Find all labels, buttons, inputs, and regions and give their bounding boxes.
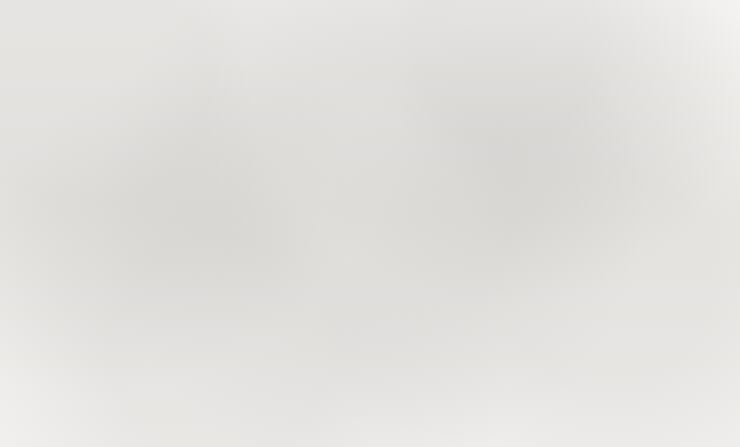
right-axis-unit-label: （%） — [676, 8, 730, 27]
left-axis-tick-label: 500 — [0, 301, 62, 320]
right-axis-tick-label: 30 — [676, 217, 695, 236]
right-axis-tick-label: 0 — [676, 354, 686, 373]
right-axis-tick-label: 20 — [676, 263, 695, 282]
x-axis-unit-label: （年份） — [650, 382, 726, 401]
data-series-layer — [103, 72, 523, 242]
right-axis-tick-label: 70 — [676, 35, 695, 54]
chart-canvas: 05001 0001 5002 0002 5003 000 0102030405… — [0, 0, 740, 447]
right-axis-tick-label: 40 — [676, 172, 695, 191]
legend-label-shanghai: 上海 — [469, 412, 507, 439]
chart-plot-area — [0, 0, 740, 447]
right-axis-tick-label: 50 — [676, 126, 695, 145]
right-axis-tick-label: 60 — [676, 81, 695, 100]
legend-item-shanghai[interactable]: 上海 — [409, 412, 507, 439]
legend-item-national[interactable]: 全国 — [233, 412, 331, 439]
left-axis-tick-label: 1 500 — [0, 195, 62, 214]
x-axis-ticks — [145, 364, 546, 372]
left-axis-tick-label: 1 000 — [0, 248, 62, 267]
diamond-marker-icon — [409, 417, 465, 435]
legend-label-national: 全国 — [293, 412, 331, 439]
series-shanghai — [103, 88, 523, 203]
left-axis-tick-label: 0 — [0, 354, 62, 373]
x-axis-tick-label: 2014 — [474, 382, 554, 401]
chart-legend: 全国 上海 — [0, 412, 740, 439]
left-axis-tick-label: 3 000 — [0, 35, 62, 54]
square-marker-icon — [233, 417, 289, 435]
right-axis-tick-label: 10 — [676, 308, 695, 327]
left-axis-tick-label: 2 500 — [0, 88, 62, 107]
left-axis-tick-label: 2 000 — [0, 141, 62, 160]
axis-lines — [78, 45, 660, 364]
